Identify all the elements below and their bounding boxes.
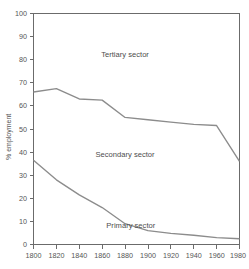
x-tick-label-1820: 1820 <box>48 251 64 260</box>
y-tick-label-30: 30 <box>19 171 27 180</box>
x-axis-ticks <box>34 245 240 249</box>
x-tick-label-1980: 1980 <box>230 251 246 260</box>
y-tick-label-40: 40 <box>19 148 27 157</box>
y-axis-title: % employment <box>5 114 13 160</box>
y-axis-ticks <box>30 14 34 245</box>
y-tick-label-60: 60 <box>19 101 27 110</box>
plot-border <box>34 14 240 245</box>
y-tick-label-100: 100 <box>15 9 27 18</box>
y-tick-label-80: 80 <box>19 55 27 64</box>
x-tick-label-1940: 1940 <box>186 251 202 260</box>
y-tick-label-70: 70 <box>19 78 27 87</box>
x-tick-label-1920: 1920 <box>163 251 179 260</box>
annotation-tertiary-sector: Tertiary sector <box>101 50 149 59</box>
y-tick-label-0: 0 <box>23 240 27 249</box>
chart-figure: 100 90 80 70 60 50 40 30 20 10 0 % emplo… <box>0 0 249 269</box>
x-tick-label-1960: 1960 <box>209 251 225 260</box>
y-tick-label-20: 20 <box>19 194 27 203</box>
x-tick-label-1840: 1840 <box>71 251 87 260</box>
annotation-secondary-sector: Secondary sector <box>96 150 156 159</box>
y-tick-label-50: 50 <box>19 125 27 134</box>
x-tick-label-1900: 1900 <box>140 251 156 260</box>
x-axis-tick-labels: 1800 1820 1840 1860 1880 1900 1920 1940 … <box>26 251 247 260</box>
x-tick-label-1860: 1860 <box>94 251 110 260</box>
annotation-primary-sector: Primary sector <box>106 221 155 230</box>
y-tick-label-10: 10 <box>19 217 27 226</box>
employment-by-sector-chart: 100 90 80 70 60 50 40 30 20 10 0 % emplo… <box>0 0 249 269</box>
x-tick-label-1880: 1880 <box>117 251 133 260</box>
y-axis-tick-labels: 100 90 80 70 60 50 40 30 20 10 0 <box>15 9 27 249</box>
y-tick-label-90: 90 <box>19 32 27 41</box>
data-series-group <box>34 89 240 239</box>
x-tick-label-1800: 1800 <box>26 251 42 260</box>
band-annotations: Tertiary sector Secondary sector Primary… <box>96 50 156 230</box>
plot-frame <box>34 14 240 245</box>
